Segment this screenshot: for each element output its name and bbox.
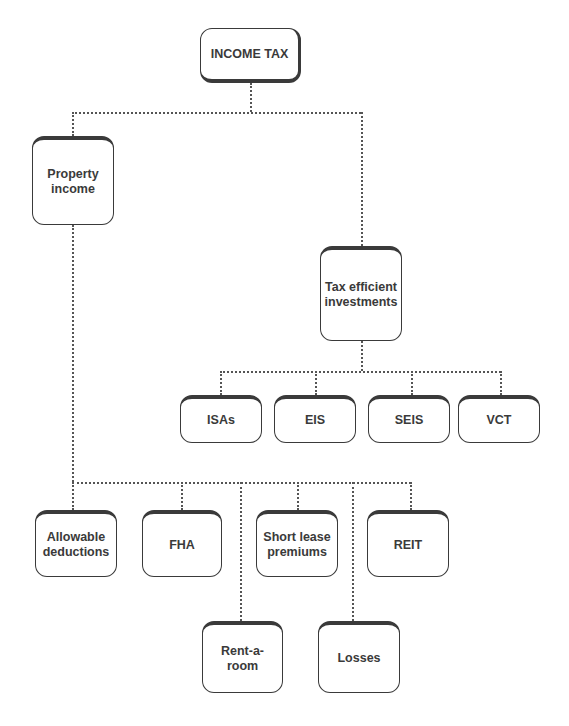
- node-label: Rent-a-room: [220, 644, 266, 674]
- node-income-tax: INCOME TAX: [200, 28, 301, 83]
- connector-to-losses: [352, 482, 354, 621]
- income-tax-diagram: INCOME TAX Property income Tax efficient…: [0, 0, 569, 726]
- node-allowable-deductions: Allowable deductions: [35, 510, 117, 577]
- node-label: FHA: [169, 538, 195, 553]
- connector-to-reit: [410, 482, 412, 510]
- connector-property-income-down: [72, 225, 74, 482]
- connector-to-fha: [181, 482, 183, 510]
- node-label: Allowable deductions: [40, 530, 112, 560]
- node-rent-a-room: Rent-a-room: [202, 621, 283, 693]
- connector-root-down: [250, 83, 252, 112]
- node-label: SEIS: [395, 413, 424, 428]
- node-reit: REIT: [367, 510, 449, 577]
- connector-to-eis: [315, 371, 317, 395]
- connector-to-vct: [500, 371, 502, 395]
- node-short-lease-premiums: Short lease premiums: [256, 510, 338, 577]
- node-label: Short lease premiums: [261, 530, 333, 560]
- connector-top-bar: [72, 112, 361, 114]
- node-label: INCOME TAX: [211, 47, 289, 62]
- connector-tax-efficient-down: [361, 341, 363, 371]
- node-tax-efficient-investments: Tax efficient investments: [320, 246, 402, 341]
- node-label: Property income: [43, 167, 103, 197]
- connector-to-tax-efficient: [361, 112, 363, 246]
- connector-to-short-lease-premiums: [297, 482, 299, 510]
- node-eis: EIS: [274, 395, 356, 443]
- connector-to-allowable-deductions: [72, 482, 74, 510]
- node-vct: VCT: [458, 395, 540, 443]
- connector-to-isas: [220, 371, 222, 395]
- node-losses: Losses: [318, 621, 400, 693]
- connector-investments-bar: [220, 371, 501, 373]
- node-label: Tax efficient investments: [325, 280, 398, 310]
- node-label: ISAs: [207, 413, 235, 428]
- connector-to-seis: [411, 371, 413, 395]
- connector-to-rent-a-room: [240, 482, 242, 621]
- connector-to-property-income: [72, 112, 74, 136]
- node-label: REIT: [394, 538, 422, 553]
- node-fha: FHA: [142, 510, 222, 577]
- node-property-income: Property income: [32, 136, 114, 225]
- node-label: EIS: [305, 413, 325, 428]
- node-isas: ISAs: [180, 395, 262, 443]
- node-label: VCT: [487, 413, 512, 428]
- node-seis: SEIS: [368, 395, 450, 443]
- node-label: Losses: [337, 651, 380, 666]
